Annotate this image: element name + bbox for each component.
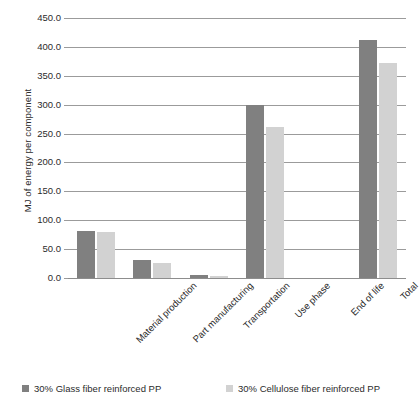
legend-label: 30% Glass fiber reinforced PP: [34, 383, 161, 394]
y-axis-tick-label: 250.0: [37, 129, 61, 139]
x-axis-category-label: Material production: [134, 280, 199, 345]
bar-group: [68, 18, 124, 278]
x-axis-category-label: Total: [398, 280, 419, 302]
bar: [133, 260, 151, 278]
y-axis-tick-label: 100.0: [37, 215, 61, 225]
legend-label: 30% Cellulose fiber reinforced PP: [238, 383, 380, 394]
bar-group: [350, 18, 406, 278]
bar: [190, 275, 208, 278]
y-axis-tick-label: 400.0: [37, 42, 61, 52]
bar-group: [181, 18, 237, 278]
bar: [266, 127, 284, 278]
bar-chart: MJ of energy per component 0.050.0100.01…: [0, 0, 419, 413]
y-axis-tick-label: 0.0: [48, 273, 61, 283]
y-axis-tick-label: 350.0: [37, 71, 61, 81]
gridline: [68, 278, 406, 279]
legend-item-glass-fiber: 30% Glass fiber reinforced PP: [22, 383, 161, 394]
y-axis-title: MJ of energy per component: [22, 41, 33, 261]
y-axis-tick-label: 200.0: [37, 158, 61, 168]
bars-group: [68, 18, 406, 278]
bar: [153, 263, 171, 278]
bar: [246, 105, 264, 278]
bar: [379, 63, 397, 279]
bar: [359, 40, 377, 278]
legend-swatch-icon: [226, 385, 233, 392]
bar: [77, 231, 95, 278]
chart-legend: 30% Glass fiber reinforced PP 30% Cellul…: [22, 383, 402, 399]
x-axis-category-label: Part manufacturing: [190, 280, 255, 345]
x-axis-category-label: End of life: [348, 280, 386, 318]
bar-group: [237, 18, 293, 278]
y-axis-tick-mark: [64, 278, 68, 279]
plot-area: 0.050.0100.0150.0200.0250.0300.0350.0400…: [68, 18, 406, 278]
bar-group: [124, 18, 180, 278]
legend-item-cellulose-fiber: 30% Cellulose fiber reinforced PP: [226, 383, 380, 394]
bar-group: [293, 18, 349, 278]
y-axis-tick-label: 150.0: [37, 187, 61, 197]
y-axis-tick-label: 450.0: [37, 13, 61, 23]
y-axis-tick-label: 50.0: [43, 244, 62, 254]
y-axis-tick-label: 300.0: [37, 100, 61, 110]
x-axis-category-labels: Material productionPart manufacturingTra…: [68, 280, 406, 360]
x-axis-category-label: Use phase: [292, 280, 332, 320]
bar: [210, 276, 228, 278]
bar: [97, 232, 115, 278]
legend-swatch-icon: [22, 385, 29, 392]
